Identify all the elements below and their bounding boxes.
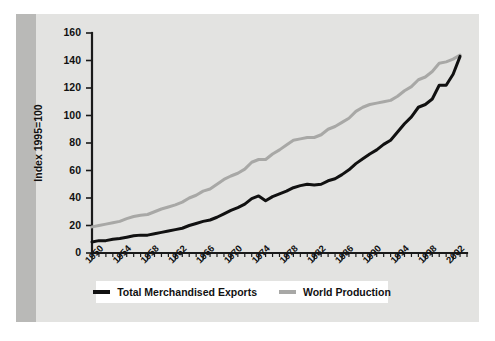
y-tick-label: 140 [63,54,81,66]
y-tick-label: 120 [63,81,81,93]
y-tick-label: 60 [69,164,81,176]
y-axis-title: Index 1995=100 [32,104,44,182]
series-line [92,55,460,227]
legend-label: World Production [303,286,391,298]
legend-entry-world-production: World Production [279,286,391,298]
legend-swatch-icon [93,290,110,294]
chart-legend: Total Merchandised Exports World Product… [96,281,388,303]
chart-figure: 020406080100120140160Index 1995=100 1950… [16,14,479,322]
series-group [92,55,460,242]
chart-plot-area: 020406080100120140160Index 1995=100 1950… [16,14,479,322]
y-tick-label: 20 [69,219,81,231]
y-tick-label: 0 [75,246,81,258]
y-axis-group: 020406080100120140160Index 1995=100 [32,26,92,258]
y-tick-label: 100 [63,109,81,121]
legend-entry-total-merchandised-exports: Total Merchandised Exports [93,286,257,298]
x-axis-group: 1950195419581962196619701974197819821986… [83,242,467,265]
y-tick-label: 80 [69,136,81,148]
y-tick-label: 40 [69,191,81,203]
y-tick-label: 160 [63,26,81,38]
legend-label: Total Merchandised Exports [117,286,257,298]
legend-swatch-icon [279,290,296,294]
